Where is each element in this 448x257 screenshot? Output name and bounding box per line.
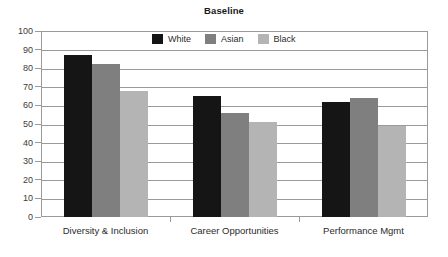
y-tick-mark bbox=[35, 105, 41, 106]
gridline-60 bbox=[42, 106, 427, 107]
legend-item-label: Asian bbox=[221, 35, 244, 44]
x-axis-separator-tick bbox=[299, 217, 300, 222]
x-axis-category-label: Performance Mgmt bbox=[323, 225, 404, 236]
legend-swatch-icon bbox=[258, 34, 269, 44]
y-tick-label: 20 bbox=[0, 175, 33, 184]
legend-item: White bbox=[152, 34, 191, 44]
x-axis-separator-tick bbox=[170, 217, 171, 222]
y-tick-mark bbox=[35, 161, 41, 162]
y-tick-label: 0 bbox=[0, 213, 33, 222]
y-tick-mark bbox=[35, 49, 41, 50]
y-tick-label: 90 bbox=[0, 45, 33, 54]
y-tick-label: 30 bbox=[0, 157, 33, 166]
legend-item-label: Black bbox=[274, 35, 296, 44]
legend-swatch-icon bbox=[152, 34, 163, 44]
bar-chart: Baseline 1009080706050403020100 WhiteAsi… bbox=[0, 0, 448, 257]
legend-item: Black bbox=[258, 34, 296, 44]
y-tick-label: 10 bbox=[0, 194, 33, 203]
y-tick-mark bbox=[35, 31, 41, 32]
y-tick-mark bbox=[35, 86, 41, 87]
y-tick-mark bbox=[35, 198, 41, 199]
gridline-80 bbox=[42, 69, 427, 70]
gridline-50 bbox=[42, 125, 427, 126]
y-tick-label: 70 bbox=[0, 82, 33, 91]
chart-legend: WhiteAsianBlack bbox=[152, 34, 296, 44]
legend-item: Asian bbox=[205, 34, 244, 44]
gridline-10 bbox=[42, 199, 427, 200]
y-tick-mark bbox=[35, 124, 41, 125]
y-axis: 1009080706050403020100 bbox=[0, 31, 33, 217]
chart-title: Baseline bbox=[0, 5, 448, 16]
legend-swatch-icon bbox=[205, 34, 216, 44]
y-tick-mark bbox=[35, 142, 41, 143]
y-tick-label: 40 bbox=[0, 138, 33, 147]
y-tick-label: 50 bbox=[0, 120, 33, 129]
plot-area bbox=[41, 31, 428, 217]
gridline-40 bbox=[42, 143, 427, 144]
y-tick-label: 80 bbox=[0, 64, 33, 73]
y-tick-mark bbox=[35, 68, 41, 69]
x-axis-category-label: Career Opportunities bbox=[190, 225, 278, 236]
y-tick-label: 100 bbox=[0, 27, 33, 36]
gridline-90 bbox=[42, 50, 427, 51]
legend-item-label: White bbox=[168, 35, 191, 44]
gridline-30 bbox=[42, 162, 427, 163]
y-tick-mark bbox=[35, 179, 41, 180]
y-tick-label: 60 bbox=[0, 101, 33, 110]
y-tick-mark bbox=[35, 217, 41, 218]
gridline-20 bbox=[42, 180, 427, 181]
x-axis-category-label: Diversity & Inclusion bbox=[63, 225, 149, 236]
gridline-70 bbox=[42, 87, 427, 88]
